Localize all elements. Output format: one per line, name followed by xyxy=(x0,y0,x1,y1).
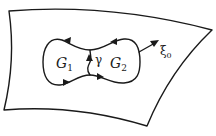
gamma-label: γ xyxy=(95,53,102,67)
xi0-vector-arrow-icon xyxy=(150,40,159,47)
gamma-arrow-icon xyxy=(86,54,93,61)
region2-label: G2 xyxy=(110,55,127,73)
surface-diagram: G1 γ G2 ξ0 xyxy=(0,0,216,136)
bottom-right-boundary-arrow-icon xyxy=(97,73,104,80)
gamma-path xyxy=(88,50,91,75)
xi0-label: ξ0 xyxy=(160,44,172,60)
surface-sheet xyxy=(4,9,212,126)
bottom-left-boundary-arrow-icon xyxy=(63,79,70,86)
region1-label: G1 xyxy=(56,55,73,73)
